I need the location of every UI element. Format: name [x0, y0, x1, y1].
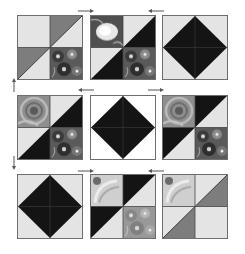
quilt-block-r1c3 — [162, 15, 228, 80]
arrow-left-icon — [148, 168, 164, 174]
quilt-block-r3c3 — [162, 174, 228, 239]
arrow-right-icon — [78, 168, 94, 174]
quilt-block-r2c1 — [17, 95, 83, 160]
quilt-block-r3c1 — [17, 174, 83, 239]
arrow-left-icon — [78, 87, 94, 93]
arrow-right-icon — [78, 8, 94, 14]
arrow-left-icon — [148, 8, 164, 14]
quilt-block-r3c2 — [90, 174, 156, 239]
quilt-block-r1c2 — [90, 15, 156, 80]
arrow-right-icon — [148, 87, 164, 93]
quilt-block-r2c2 — [90, 95, 156, 160]
arrow-up-icon — [11, 78, 17, 92]
quilt-block-r2c3 — [162, 95, 228, 160]
quilt-block-r1c1 — [17, 15, 83, 80]
arrow-down-icon — [11, 156, 17, 170]
